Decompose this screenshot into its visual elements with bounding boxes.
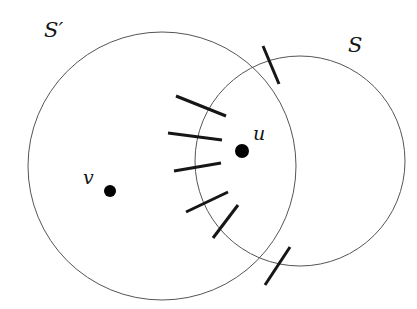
vertex-point-u bbox=[235, 144, 249, 158]
set-label-s-prime: S′ bbox=[44, 20, 63, 41]
hatch-mark bbox=[168, 133, 222, 140]
vertex-label-u: u bbox=[253, 124, 265, 143]
hatch-mark-group bbox=[168, 46, 290, 285]
hatch-mark bbox=[265, 247, 290, 285]
vertex-point-v bbox=[104, 185, 116, 197]
hatch-mark bbox=[176, 96, 226, 116]
hatch-mark bbox=[263, 46, 279, 84]
vertex-label-v: v bbox=[83, 168, 94, 187]
hatch-mark bbox=[213, 205, 238, 238]
hatch-mark bbox=[174, 163, 221, 171]
diagram-canvas: S′ S u v bbox=[0, 0, 417, 309]
circle-s bbox=[195, 56, 405, 266]
set-label-s: S bbox=[348, 35, 362, 56]
circle-s-prime bbox=[28, 32, 296, 300]
